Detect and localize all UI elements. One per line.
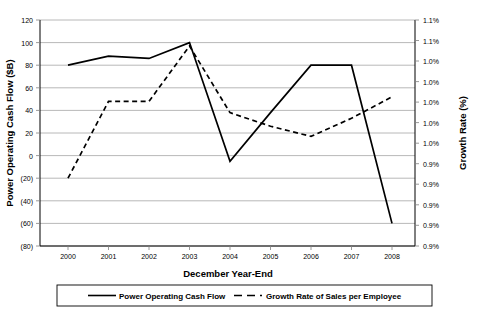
y2tick-label: 1.0% (423, 58, 439, 65)
left-axis (36, 20, 40, 246)
y2tick-label: 1.0% (423, 99, 439, 106)
y2tick-label: 1.1% (423, 38, 439, 45)
y2tick-label: 1.0% (423, 120, 439, 127)
ytick-label: 80 (25, 62, 33, 69)
xtick-label: 2006 (303, 253, 319, 260)
left-axis-tick-labels: 120 100 80 60 40 20 0 (20) (40) (60) (80… (21, 17, 34, 251)
ytick-label: 60 (25, 85, 33, 92)
xtick-label: 2002 (141, 253, 157, 260)
y2tick-label: 1.0% (423, 79, 439, 86)
right-axis-title: Growth Rate (%) (457, 96, 468, 170)
ytick-label: (40) (21, 198, 33, 206)
bottom-axis (40, 246, 415, 250)
right-axis-tick-labels: 1.1% 1.1% 1.0% 1.0% 1.0% 1.0% 1.0% 0.9% … (423, 17, 439, 250)
ytick-label: (60) (21, 220, 33, 228)
y2tick-label: 0.9% (423, 222, 439, 229)
xtick-label: 2000 (60, 253, 76, 260)
xtick-label: 2007 (344, 253, 360, 260)
y2tick-label: 0.9% (423, 202, 439, 209)
ytick-label: 120 (21, 17, 33, 24)
left-axis-title: Power Operating Cash Flow ($B) (4, 59, 15, 206)
y2tick-label: 1.1% (423, 17, 439, 24)
line-chart: 120 100 80 60 40 20 0 (20) (40) (60) (80… (0, 0, 481, 316)
x-axis-title: December Year-End (183, 268, 273, 279)
ytick-label: 100 (21, 40, 33, 47)
chart-legend: Power Operating Cash Flow Growth Rate of… (57, 285, 432, 306)
xtick-label: 2004 (222, 253, 238, 260)
y2tick-label: 1.0% (423, 140, 439, 147)
chart-container: 120 100 80 60 40 20 0 (20) (40) (60) (80… (0, 0, 481, 316)
ytick-label: 0 (29, 153, 33, 160)
legend-label-growth-rate-sales-per-employee: Growth Rate of Sales per Employee (266, 292, 402, 301)
xtick-label: 2003 (182, 253, 198, 260)
y2tick-label: 0.9% (423, 181, 439, 188)
right-axis (415, 20, 419, 246)
y2tick-label: 0.9% (423, 243, 439, 250)
legend-label-power-operating-cash-flow: Power Operating Cash Flow (119, 292, 226, 301)
ytick-label: (20) (21, 175, 33, 183)
x-axis-tick-labels: 2000 2001 2002 2003 2004 2005 2006 2007 … (60, 253, 400, 260)
ytick-label: 20 (25, 130, 33, 137)
xtick-label: 2008 (384, 253, 400, 260)
ytick-label: 40 (25, 107, 33, 114)
ytick-label: (80) (21, 243, 33, 251)
xtick-label: 2001 (101, 253, 117, 260)
y2tick-label: 0.9% (423, 161, 439, 168)
xtick-label: 2005 (263, 253, 279, 260)
